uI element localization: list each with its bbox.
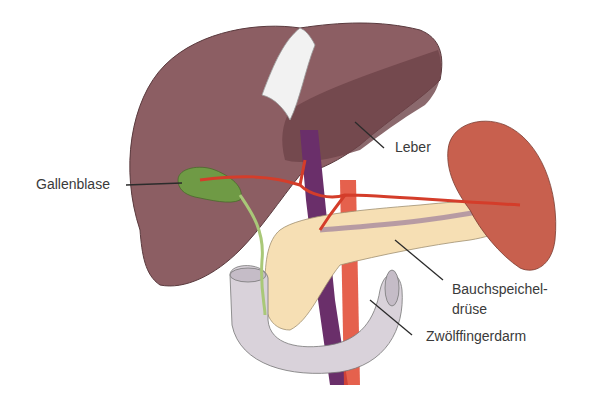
label-pancreas-line1: Bauchspeichel-: [452, 281, 548, 298]
spleen: [448, 121, 556, 270]
label-duodenum: Zwölffingerdarm: [426, 328, 526, 345]
label-gallbladder: Gallenblase: [36, 176, 110, 193]
label-liver: Leber: [395, 139, 431, 156]
label-pancreas-line2: drüse: [452, 301, 487, 318]
